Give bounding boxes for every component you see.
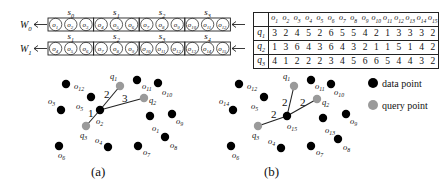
segment-label: s3: [204, 7, 211, 19]
column-header: o9: [359, 13, 370, 27]
data-point: [307, 142, 315, 150]
distance-cell: 3: [405, 27, 416, 41]
distance-cell: 3: [416, 27, 427, 41]
query-point: [254, 122, 262, 130]
distance-cell: 5: [337, 27, 348, 41]
object-label: o2: [67, 21, 74, 30]
segment: s4o13o14o15: [185, 31, 231, 55]
segment: s3o10o11o12: [185, 7, 231, 31]
object-label: o8: [159, 21, 166, 30]
diagram-b: 222o12o14o5o15o11o10o13o9o6o4o7o8q1q2q3: [219, 71, 357, 161]
legend-label-data-point: data point: [382, 78, 422, 89]
object-label: o10: [142, 45, 151, 54]
data-point-label: o15: [287, 121, 297, 132]
data-point: [334, 135, 342, 143]
data-point-label: o10: [334, 87, 344, 98]
object-label: o11: [203, 21, 211, 30]
window-0: W0s0o1o2o3s1o4o5o6s2o7o8o9s3o10o11o12: [20, 7, 245, 32]
object-label: o9: [128, 45, 135, 54]
data-point-label: o7: [316, 147, 324, 158]
data-point: [168, 110, 176, 118]
data-point: [319, 114, 327, 122]
table-row: q2136436432115142: [254, 41, 439, 55]
column-header: o11: [382, 13, 393, 27]
row-header: q2: [254, 41, 269, 55]
column-header: o6: [325, 13, 336, 27]
segment-label: s3: [159, 31, 166, 43]
data-point: [235, 80, 243, 88]
data-point-label: o9: [350, 116, 357, 127]
object-label: o8: [113, 45, 120, 54]
distance-table: o1o2o3o4o5o6o7o8o9o10o11o12o13o14o15q132…: [253, 12, 439, 69]
data-point-label: o2: [96, 116, 103, 127]
distance-cell: 5: [348, 27, 359, 41]
distance-cell: 6: [325, 41, 336, 55]
object-label: o12: [218, 21, 227, 30]
data-point-label: o5: [251, 101, 258, 112]
data-point: [229, 106, 237, 114]
object-label: o11: [158, 45, 166, 54]
query-point: [116, 82, 124, 90]
distance-cell: 4: [359, 27, 370, 41]
distance-cell: 3: [393, 27, 404, 41]
data-point-label: o4: [95, 135, 102, 146]
object-label: o13: [188, 45, 197, 54]
edge-weight: 2: [300, 96, 306, 108]
data-point: [133, 76, 141, 84]
legend-label-query-point: query point: [382, 100, 428, 111]
query-point-label: q1: [110, 71, 117, 82]
segment-label: s2: [159, 7, 166, 19]
data-point-label: o7: [143, 147, 151, 158]
object-label: o4: [52, 45, 59, 54]
object-label: o10: [188, 21, 197, 30]
distance-cell: 3: [269, 27, 281, 41]
window-1: W1s1o4o5o6s2o7o8o9s3o10o11o12s4o13o14o15: [20, 31, 245, 56]
table-row: q1324526554213332: [254, 27, 439, 41]
column-header: o5: [314, 13, 325, 27]
distance-cell: 4: [292, 27, 303, 41]
data-point-label: o8: [170, 140, 177, 151]
column-header: o10: [371, 13, 382, 27]
column-header: o15: [427, 13, 439, 27]
distance-cell: 3: [348, 41, 359, 55]
object-label: o3: [83, 21, 90, 30]
segment: s1o4o5o6: [48, 31, 94, 55]
data-point-label: o6: [232, 150, 239, 161]
query-point-label: q3: [252, 130, 259, 141]
distance-cell: 1: [371, 41, 382, 55]
segment: s3o10o11o12: [139, 31, 185, 55]
query-point-marker-icon: [368, 100, 378, 110]
legend-item-query-point: query point: [368, 100, 428, 111]
segment-label: s2: [113, 31, 120, 43]
column-header: o13: [405, 13, 416, 27]
object-label: o6: [83, 45, 90, 54]
row-header: q1: [254, 27, 269, 41]
data-point-label: o13: [325, 125, 335, 136]
segment-label: s1: [68, 31, 75, 43]
edge-weight: 2: [104, 88, 110, 100]
distance-cell: 6: [292, 41, 303, 55]
data-point: [104, 143, 112, 151]
segment: s2o7o8o9: [94, 31, 140, 55]
segment-label: s1: [113, 7, 120, 19]
query-point-label: q1: [283, 71, 290, 82]
data-point: [134, 142, 142, 150]
data-point-label: o6: [58, 150, 65, 161]
distance-cell: 2: [427, 27, 439, 41]
distance-cell: 1: [405, 41, 416, 55]
edge-weight: 2: [282, 96, 288, 108]
edge-weight: 1: [88, 107, 94, 119]
edge: [100, 86, 120, 110]
object-label: o5: [67, 45, 74, 54]
object-label: o15: [218, 45, 227, 54]
table-header-row: o1o2o3o4o5o6o7o8o9o10o11o12o13o14o15: [254, 13, 439, 27]
segment: s2o7o8o9: [139, 7, 185, 31]
sliding-window-diagram: W0s0o1o2o3s1o4o5o6s2o7o8o9s3o10o11o12W1s…: [0, 0, 250, 62]
data-point: [342, 110, 350, 118]
distance-cell: 3: [280, 41, 291, 55]
data-point-marker-icon: [368, 78, 378, 88]
data-point-label: o11: [142, 81, 152, 92]
query-point-label: q3: [80, 130, 87, 141]
column-header: o1: [269, 13, 281, 27]
distance-cell: 1: [269, 41, 281, 55]
